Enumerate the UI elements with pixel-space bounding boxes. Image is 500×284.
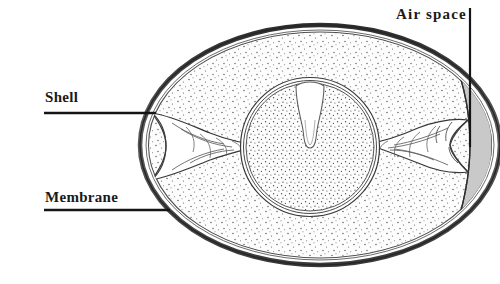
- label-membrane: Membrane: [45, 190, 118, 205]
- label-shell: Shell: [45, 90, 78, 105]
- egg-body: [140, 25, 500, 265]
- egg-anatomy-diagram: [0, 0, 500, 284]
- yolk-group: [241, 78, 380, 217]
- label-air-space: Air space: [396, 7, 467, 22]
